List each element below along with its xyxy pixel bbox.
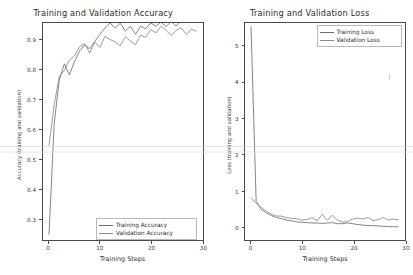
accuracy-plot-area (42, 22, 204, 241)
legend-item-validation-loss: Validation Loss (320, 36, 398, 44)
loss-panel: Training and Validation Loss Loss (train… (207, 0, 413, 275)
loss-chart-title: Training and Validation Loss (207, 8, 413, 18)
accuracy-x-axis-label: Training Steps (42, 255, 204, 263)
validation-loss-line-swatch (320, 40, 334, 41)
loss-x-tick-mark (354, 241, 355, 244)
accuracy-x-tick-mark (48, 241, 49, 244)
accuracy-y-tick-label: 0.7 (20, 97, 36, 103)
accuracy-x-tick-mark (203, 241, 204, 244)
loss-lines-svg (245, 23, 405, 240)
legend-label: Validation Accuracy (116, 230, 173, 236)
loss-y-tick-label: 1 (229, 189, 239, 195)
loss-y-tick-label: 5 (229, 43, 239, 49)
legend-label: Training Accuracy (116, 222, 167, 228)
loss-y-tick-label: 0 (229, 225, 239, 231)
loss-x-tick-mark (250, 241, 251, 244)
loss-x-tick-label: 30 (396, 245, 413, 251)
accuracy-y-tick-label: 0.5 (20, 157, 36, 163)
accuracy-x-tick-mark (99, 241, 100, 244)
validation-accuracy-line (49, 26, 197, 145)
accuracy-legend: Training Accuracy Validation Accuracy (96, 218, 197, 240)
loss-x-tick-label: 20 (344, 245, 364, 251)
accuracy-x-tick-mark (151, 241, 152, 244)
accuracy-chart-title: Training and Validation Accuracy (0, 8, 207, 18)
accuracy-lines-svg (43, 23, 203, 240)
accuracy-y-tick-label: 0.6 (20, 127, 36, 133)
training-accuracy-line-swatch (99, 225, 113, 226)
loss-x-axis-label: Training Steps (244, 255, 406, 263)
validation-loss-line (251, 198, 399, 222)
loss-y-tick-label: 4 (229, 79, 239, 85)
scan-artifact-speck (389, 74, 390, 80)
training-loss-line-swatch (320, 32, 334, 33)
accuracy-panel: Training and Validation Accuracy Accurac… (0, 0, 207, 275)
legend-item-validation-accuracy: Validation Accuracy (99, 229, 193, 237)
accuracy-x-tick-label: 0 (38, 245, 58, 251)
accuracy-x-tick-label: 20 (142, 245, 162, 251)
accuracy-y-tick-label: 0.3 (20, 217, 36, 223)
loss-y-tick-label: 2 (229, 152, 239, 158)
legend-label: Training Loss (337, 29, 374, 35)
figure-canvas: Training and Validation Accuracy Accurac… (0, 0, 413, 275)
loss-x-tick-mark (302, 241, 303, 244)
loss-x-tick-label: 0 (241, 245, 261, 251)
loss-y-tick-label: 3 (229, 116, 239, 122)
accuracy-y-tick-label: 0.9 (20, 37, 36, 43)
legend-label: Validation Loss (337, 37, 380, 43)
legend-item-training-loss: Training Loss (320, 28, 398, 36)
loss-y-axis-label: Loss (training and validation) (226, 81, 232, 189)
accuracy-y-tick-label: 0.4 (20, 187, 36, 193)
training-loss-line (251, 26, 399, 226)
validation-accuracy-line-swatch (99, 233, 113, 234)
legend-item-training-accuracy: Training Accuracy (99, 221, 193, 229)
loss-x-tick-label: 10 (292, 245, 312, 251)
accuracy-x-tick-label: 10 (90, 245, 110, 251)
loss-plot-area (244, 22, 406, 241)
training-accuracy-line (49, 23, 197, 235)
accuracy-y-tick-label: 0.8 (20, 67, 36, 73)
loss-x-tick-mark (406, 241, 407, 244)
loss-legend: Training Loss Validation Loss (317, 25, 402, 47)
